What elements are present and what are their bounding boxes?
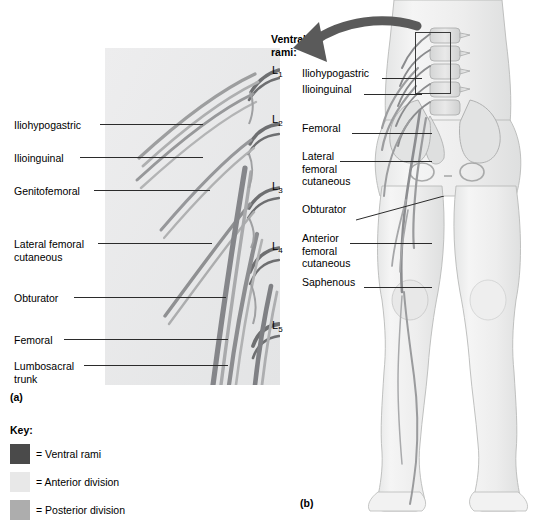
- vertebra-number-l1: 1: [278, 70, 282, 79]
- leader-line-ilioinguinal-b: [364, 94, 422, 95]
- leader-line-obturator-b: [356, 196, 446, 222]
- leader-line-lateral-femoral-cutaneous-a: [98, 243, 212, 244]
- key-item-posterior-division: = Posterior division: [10, 500, 200, 520]
- label-obturator-a: Obturator: [14, 292, 58, 305]
- lumbar-plexus-figure: Iliohypogastric Ilioinguinal Genitofemor…: [0, 0, 536, 525]
- key-legend: Key: = Ventral rami = Anterior division …: [10, 424, 200, 520]
- key-item-anterior-division: = Anterior division: [10, 472, 200, 492]
- vertebra-label-l2: L2: [272, 113, 283, 128]
- vertebra-label-l5: L5: [272, 319, 283, 334]
- label-ilioinguinal-b: Ilioinguinal: [302, 83, 352, 96]
- leader-line-anterior-femoral-cutaneous-b: [350, 243, 432, 244]
- vertebra-number-l5: 5: [278, 325, 282, 334]
- leader-line-femoral-a: [64, 339, 228, 340]
- key-label-ventral-rami: = Ventral rami: [36, 448, 101, 460]
- leader-line-saphenous-b: [364, 287, 432, 288]
- leader-line-ilioinguinal-a: [80, 157, 203, 158]
- key-title: Key:: [10, 424, 200, 436]
- label-lateral-femoral-cutaneous-a: Lateral femoral cutaneous: [14, 238, 84, 263]
- label-ilioinguinal-a: Ilioinguinal: [14, 152, 64, 165]
- label-femoral-a: Femoral: [14, 334, 53, 347]
- leader-line-lumbosacral-trunk-a: [84, 365, 228, 366]
- vertebra-number-l4: 4: [278, 246, 282, 255]
- label-genitofemoral-a: Genitofemoral: [14, 185, 80, 198]
- vertebra-label-l3: L3: [272, 180, 283, 195]
- vertebra-number-l2: 2: [278, 119, 282, 128]
- key-item-ventral-rami: = Ventral rami: [10, 444, 200, 464]
- leader-line-iliohypogastric-a: [100, 124, 203, 125]
- vertebra-number-l3: 3: [278, 186, 282, 195]
- leader-line-femoral-b: [352, 133, 432, 134]
- label-iliohypogastric-b: Iliohypogastric: [302, 67, 369, 80]
- label-lateral-femoral-cutaneous-b: Lateral femoral cutaneous: [302, 150, 350, 188]
- panel-a-nerve-artwork: [105, 48, 280, 385]
- key-label-anterior-division: = Anterior division: [36, 476, 119, 488]
- leader-line-lateral-femoral-cutaneous-b: [340, 161, 432, 162]
- label-obturator-b: Obturator: [302, 203, 346, 216]
- leader-line-obturator-a: [74, 297, 226, 298]
- vertebra-label-l1: L1: [272, 64, 283, 79]
- label-saphenous-b: Saphenous: [302, 276, 355, 289]
- panel-b-tag: (b): [300, 497, 313, 509]
- vertebra-label-l4: L4: [272, 240, 283, 255]
- key-swatch-ventral-rami: [10, 444, 30, 464]
- panel-a-illustration: [105, 48, 280, 385]
- leader-line-genitofemoral-a: [94, 190, 210, 191]
- label-femoral-b: Femoral: [302, 122, 341, 135]
- label-lumbosacral-trunk-a: Lumbosacral trunk: [14, 360, 74, 385]
- label-anterior-femoral-cutaneous-b: Anterior femoral cutaneous: [302, 232, 350, 270]
- key-swatch-posterior-division: [10, 500, 30, 520]
- leader-line-iliohypogastric-b: [382, 78, 422, 79]
- key-swatch-anterior-division: [10, 472, 30, 492]
- key-label-posterior-division: = Posterior division: [36, 504, 125, 516]
- label-iliohypogastric-a: Iliohypogastric: [14, 119, 81, 132]
- panel-a-tag: (a): [10, 391, 23, 403]
